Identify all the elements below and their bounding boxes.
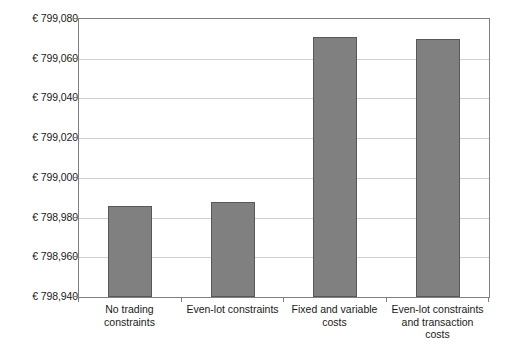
bar (416, 39, 460, 297)
x-axis-category-label: Even-lot constraints (181, 303, 284, 316)
x-axis-category-label-line: Fixed and variable (283, 303, 386, 316)
x-axis-category-label: No tradingconstraints (78, 303, 181, 328)
x-axis-tick-mark (283, 297, 284, 302)
x-axis-tick-mark (386, 297, 387, 302)
x-axis-category-label-line: Even-lot constraints (386, 303, 489, 316)
y-axis-tick-label: € 798,960 (4, 251, 78, 262)
plot-area (78, 18, 490, 298)
x-axis-category-label: Fixed and variablecosts (283, 303, 386, 328)
x-axis-category-label-line: constraints (78, 316, 181, 329)
x-axis-category-label: Even-lot constraintsand transactioncosts (386, 303, 489, 341)
y-axis: € 799,080€ 799,060€ 799,040€ 799,020€ 79… (0, 18, 78, 296)
y-axis-tick-label: € 799,020 (4, 132, 78, 143)
x-axis-category-label-line: costs (386, 328, 489, 341)
x-axis-category-label-line: Even-lot constraints (181, 303, 284, 316)
x-axis-tick-mark (488, 297, 489, 302)
x-axis-category-label-line: and transaction (386, 316, 489, 329)
y-axis-tick-label: € 799,060 (4, 53, 78, 64)
bar (211, 202, 255, 297)
x-axis-category-label-line: costs (283, 316, 386, 329)
bar-chart: € 799,080€ 799,060€ 799,040€ 799,020€ 79… (0, 0, 507, 350)
x-axis-labels: No tradingconstraintsEven-lot constraint… (78, 303, 488, 348)
y-axis-tick-label: € 799,080 (4, 13, 78, 24)
bar (108, 206, 152, 297)
x-axis-tick-mark (181, 297, 182, 302)
y-axis-tick-label: € 799,040 (4, 92, 78, 103)
y-axis-tick-label: € 798,940 (4, 291, 78, 302)
y-axis-tick-label: € 798,980 (4, 212, 78, 223)
x-axis-tick-mark (78, 297, 79, 302)
bar (313, 37, 357, 297)
x-axis-category-label-line: No trading (78, 303, 181, 316)
y-axis-tick-label: € 799,000 (4, 172, 78, 183)
